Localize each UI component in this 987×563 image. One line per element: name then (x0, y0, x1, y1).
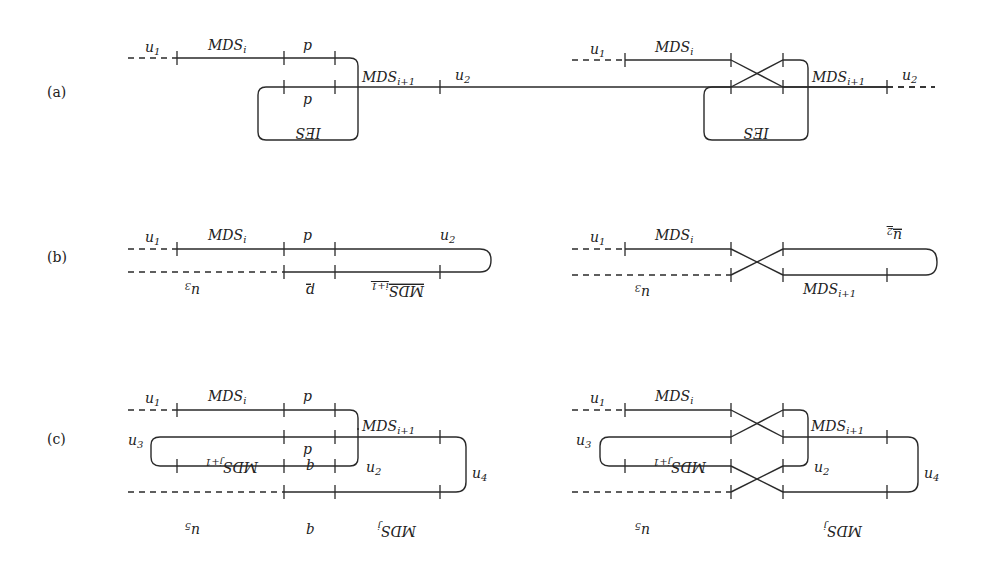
panel-label-a: (a) (47, 84, 66, 100)
panel-label-c: (c) (47, 431, 66, 447)
svg-text:u5: u5 (635, 521, 650, 539)
svg-text:MDSi+1: MDSi+1 (361, 418, 415, 436)
svg-text:MDSi: MDSi (654, 39, 693, 57)
svg-text:MDSi+1: MDSi+1 (811, 69, 865, 87)
svg-text:p: p (303, 227, 312, 243)
svg-text:MDSi: MDSi (207, 227, 246, 245)
svg-text:u1: u1 (145, 390, 160, 408)
svg-text:u1: u1 (145, 39, 160, 57)
svg-text:p: p (306, 283, 315, 299)
svg-text:MDSi+1: MDSi+1 (361, 69, 415, 87)
svg-text:MDSi: MDSi (207, 37, 246, 55)
svg-text:u1: u1 (590, 41, 605, 59)
svg-text:u4: u4 (472, 465, 487, 483)
ies-label-inverted: IES (295, 125, 321, 141)
svg-text:u1: u1 (590, 390, 605, 408)
svg-text:MDSi: MDSi (654, 227, 693, 245)
svg-text:MDSj+1: MDSj+1 (653, 457, 707, 475)
svg-text:p: p (303, 441, 312, 457)
svg-text:MDSi+1: MDSi+1 (802, 281, 856, 299)
svg-text:u3: u3 (635, 283, 650, 301)
svg-text:u5: u5 (185, 521, 200, 539)
svg-text:u3: u3 (576, 432, 591, 450)
panel-b-left: u1 MDSi p u2 u3 p MDSi+1 (128, 227, 491, 299)
svg-text:MDSi: MDSi (654, 388, 693, 406)
svg-text:p: p (303, 388, 312, 404)
svg-text:q: q (306, 523, 315, 539)
svg-text:MDSj+1: MDSj+1 (205, 457, 259, 475)
svg-text:u2: u2 (440, 227, 455, 245)
panel-c-left: u1 MDSi p MDSi+1 u3 p MDSj+1 q u2 u4 u5 … (128, 388, 487, 539)
svg-text:u3: u3 (185, 281, 200, 299)
svg-text:MDSi: MDSi (207, 388, 246, 406)
panel-a-left: u1 MDSi p p MDSi+1 u2 IES (128, 37, 935, 141)
svg-text:u2: u2 (455, 67, 470, 85)
svg-text:MDSj: MDSj (824, 521, 863, 539)
svg-text:MDSj: MDSj (378, 521, 417, 539)
panel-a-right: u1 MDSi MDSi+1 u2 IES (572, 39, 935, 141)
svg-text:u1: u1 (145, 229, 160, 247)
svg-text:u3: u3 (128, 432, 143, 450)
svg-text:MDSi+1: MDSi+1 (371, 281, 425, 299)
ies-label-inverted: IES (743, 125, 769, 141)
svg-text:u1: u1 (590, 229, 605, 247)
reversal-diagram: (a) (b) (c) u1 MDSi p p MDSi+1 u2 IES u1 (0, 0, 987, 563)
svg-text:p: p (303, 91, 312, 107)
svg-text:u4: u4 (924, 465, 939, 483)
panel-label-b: (b) (47, 249, 67, 265)
svg-text:p: p (303, 37, 312, 53)
svg-text:u2: u2 (887, 226, 902, 244)
svg-text:u2: u2 (902, 67, 917, 85)
svg-text:u2: u2 (366, 459, 381, 477)
svg-text:q: q (306, 459, 315, 475)
panel-b-right: u1 MDSi u2 u3 MDSi+1 (572, 226, 937, 301)
svg-text:u2: u2 (814, 459, 829, 477)
panel-c-right: u1 MDSi MDSi+1 u3 MDSj+1 u2 u4 u5 MDSj (572, 388, 939, 539)
svg-text:MDSi+1: MDSi+1 (810, 418, 864, 436)
